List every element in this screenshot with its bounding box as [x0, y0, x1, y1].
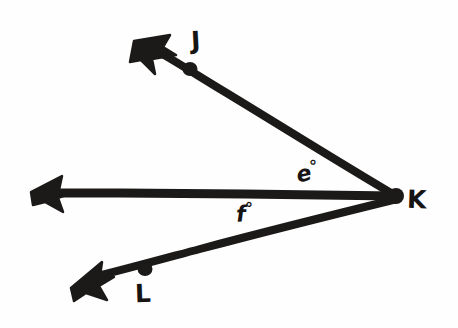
angle-label-f: f°: [235, 201, 254, 226]
angle-label-e: e°: [294, 158, 321, 186]
point-label-l: L: [135, 281, 152, 307]
ray-k-j: [130, 35, 396, 196]
point-dot-j: [183, 62, 198, 76]
ray-k-horizontal-line: [52, 193, 396, 196]
geometry-diagram: J K L e° f°: [0, 0, 458, 328]
ray-k-l: [71, 199, 397, 301]
ray-k-j-arrowhead: [130, 35, 176, 74]
point-label-k: K: [407, 187, 427, 213]
ray-k-l-arrowhead: [71, 262, 114, 301]
degree-symbol-f: °: [245, 199, 254, 218]
ray-k-horizontal: [31, 176, 396, 212]
ray-k-horizontal-arrowhead: [31, 176, 73, 212]
diagram-canvas: [0, 0, 458, 328]
point-label-j: J: [190, 28, 201, 53]
point-dot-k: [388, 188, 404, 204]
point-dot-l: [138, 262, 153, 276]
